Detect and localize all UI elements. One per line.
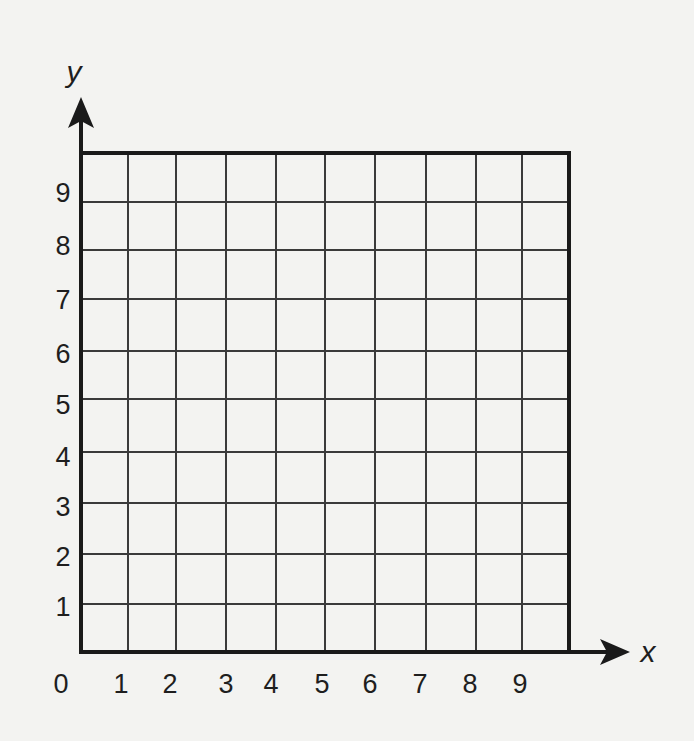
x-tick-label: 9	[512, 671, 527, 698]
y-tick-label: 1	[55, 594, 70, 621]
x-axis-label: x	[641, 637, 656, 667]
y-tick-label: 4	[55, 444, 70, 471]
x-tick-label: 6	[362, 671, 377, 698]
y-tick-label: 9	[55, 180, 70, 207]
y-tick-label: 7	[55, 287, 70, 314]
x-tick-label: 2	[162, 671, 177, 698]
x-tick-label: 5	[314, 671, 329, 698]
origin-label: 0	[53, 671, 68, 698]
x-tick-label: 3	[218, 671, 233, 698]
y-tick-label: 6	[55, 341, 70, 368]
y-tick-label: 2	[55, 544, 70, 571]
x-tick-label: 4	[263, 671, 278, 698]
x-tick-label: 8	[462, 671, 477, 698]
coordinate-grid	[0, 0, 694, 741]
x-tick-label: 7	[412, 671, 427, 698]
vertical-gridlines	[128, 153, 522, 652]
y-axis-label: y	[67, 57, 82, 87]
y-tick-label: 8	[55, 233, 70, 260]
x-tick-label: 1	[113, 671, 128, 698]
y-tick-label: 5	[55, 392, 70, 419]
y-tick-label: 3	[55, 494, 70, 521]
